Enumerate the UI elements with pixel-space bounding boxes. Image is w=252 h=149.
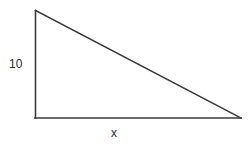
- vertical-leg-label: 10: [9, 57, 23, 71]
- hypotenuse-line: [36, 11, 242, 119]
- triangle-figure: 10 x: [0, 0, 252, 149]
- triangle-drawing: [0, 0, 252, 149]
- base-leg-label: x: [111, 126, 117, 140]
